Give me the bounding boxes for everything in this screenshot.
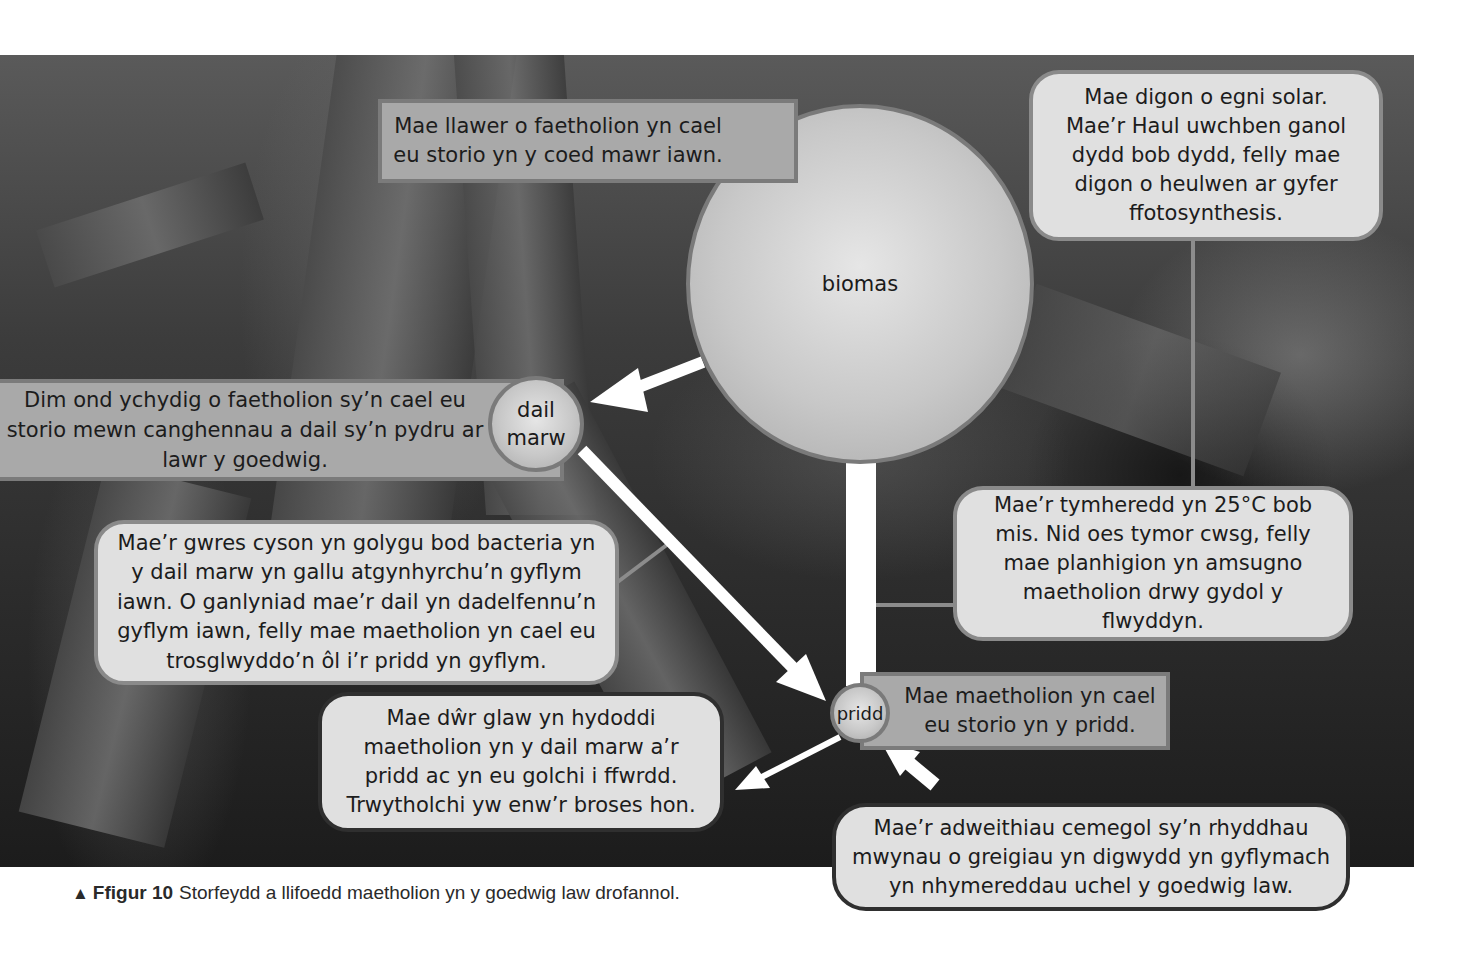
decomposition-box: Mae’r gwres cyson yn golygu bod bacteria… — [94, 520, 619, 685]
weathering-text: Mae’r adweithiau cemegol sy’n rhyddhau m… — [852, 814, 1330, 901]
buttress-root — [999, 284, 1281, 476]
solar-energy-box: Mae digon o egni solar. Mae’r Haul uwchb… — [1029, 70, 1383, 241]
soil-store-text: Mae maetholion yn cael eu storio yn y pr… — [904, 682, 1155, 740]
leaching-box: Mae dŵr glaw yn hydoddi maetholion yn y … — [318, 692, 724, 832]
triangle-marker-icon: ▲ — [72, 884, 89, 903]
dead-leaves-node: dail marw — [488, 376, 584, 472]
figure-caption: ▲Ffigur 10Storfeydd a llifoedd maetholio… — [72, 882, 680, 904]
litter-store-text: Dim ond ychydig o faetholion sy’n cael e… — [7, 385, 484, 475]
temperature-text: Mae’r tymheredd yn 25°C bob mis. Nid oes… — [994, 491, 1312, 636]
dead-leaves-label: dail marw — [506, 396, 565, 452]
buttress-root — [36, 162, 264, 287]
figure-label: Ffigur 10 — [93, 882, 173, 903]
decomposition-text: Mae’r gwres cyson yn golygu bod bacteria… — [117, 529, 596, 677]
soil-label: pridd — [837, 703, 884, 724]
litter-store-box: Dim ond ychydig o faetholion sy’n cael e… — [0, 379, 564, 481]
leaching-text: Mae dŵr glaw yn hydoddi maetholion yn y … — [346, 704, 695, 820]
biomass-store-text: Mae llawer o faetholion yn cael eu stori… — [393, 112, 722, 170]
solar-energy-text: Mae digon o egni solar. Mae’r Haul uwchb… — [1066, 83, 1346, 228]
figure-caption-text: Storfeydd a llifoedd maetholion yn y goe… — [179, 882, 680, 903]
soil-node: pridd — [830, 683, 890, 743]
weathering-box: Mae’r adweithiau cemegol sy’n rhyddhau m… — [832, 803, 1350, 911]
temperature-box: Mae’r tymheredd yn 25°C bob mis. Nid oes… — [953, 486, 1353, 641]
soil-store-box: Mae maetholion yn cael eu storio yn y pr… — [860, 672, 1170, 750]
biomass-node-overlay — [686, 104, 1034, 464]
